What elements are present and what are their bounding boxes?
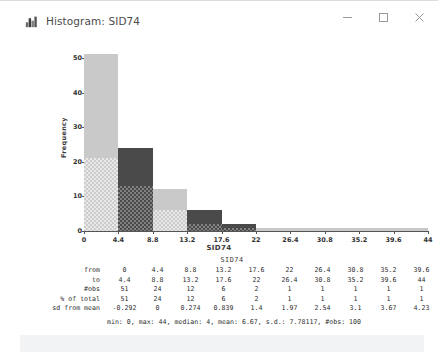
histogram-bar[interactable]: [222, 224, 256, 231]
stats-row-label: % of total: [0, 295, 108, 305]
stats-cell: 0: [141, 304, 174, 314]
minimize-icon: [342, 12, 353, 23]
histogram-plot[interactable]: Frequency 01020304050 04.48.813.217.6222…: [0, 37, 438, 253]
stats-cell: 24: [141, 285, 174, 295]
stats-cell: -0.292: [108, 304, 141, 314]
stats-cell: 1: [372, 285, 405, 295]
x-tick-label: 26.4: [282, 236, 298, 244]
histogram-bars[interactable]: [0, 37, 438, 237]
stats-cell: 51: [108, 285, 141, 295]
stats-cell: 2.54: [306, 304, 339, 314]
x-tick-mark: [428, 231, 429, 234]
stats-cell: 44: [405, 276, 438, 286]
stats-cell: 0.274: [174, 304, 207, 314]
x-axis-title: SID74: [0, 244, 438, 252]
summary-statistics: min: 0, max: 44, median: 4, mean: 6.67, …: [0, 318, 438, 326]
x-tick-label: 44: [423, 236, 432, 244]
x-tick-label: 8.8: [147, 236, 159, 244]
stats-cell: 1: [339, 285, 372, 295]
stats-cell: 1: [405, 295, 438, 305]
x-axis-line: [84, 231, 428, 232]
stats-title: SID74: [0, 256, 438, 264]
stats-cell: 4.4: [141, 266, 174, 276]
stats-cell: 0: [108, 266, 141, 276]
stats-row: sd from mean-0.29200.2740.8391.41.972.54…: [0, 304, 438, 314]
stats-cell: 1.97: [273, 304, 306, 314]
stats-cell: 1.4: [240, 304, 273, 314]
x-tick-label: 35.2: [351, 236, 367, 244]
stats-cell: 22: [240, 276, 273, 286]
stats-cell: 1: [273, 285, 306, 295]
stats-cell: 12: [174, 295, 207, 305]
x-tick-label: 17.6: [214, 236, 230, 244]
stats-cell: 24: [141, 295, 174, 305]
bar-unselected-segment: [84, 54, 118, 158]
stats-cell: 12: [174, 285, 207, 295]
stats-row-label: from: [0, 266, 108, 276]
stats-cell: 1: [306, 295, 339, 305]
bar-unselected-segment: [153, 189, 187, 210]
bar-selected-segment: [118, 186, 152, 231]
stats-cell: 26.4: [273, 276, 306, 286]
stats-cell: 30.8: [306, 276, 339, 286]
minimize-button[interactable]: [336, 9, 358, 25]
stats-row: #obs5124126211111: [0, 285, 438, 295]
stats-cell: 8.8: [174, 266, 207, 276]
stats-row: % of total5124126211111: [0, 295, 438, 305]
histogram-bar[interactable]: [84, 54, 118, 231]
stats-row-label: sd from mean: [0, 304, 108, 314]
close-button[interactable]: [408, 9, 430, 25]
x-tick-label: 22: [251, 236, 260, 244]
maximize-icon: [378, 12, 389, 23]
statistics-panel: SID74 from04.48.813.217.62226.430.835.23…: [0, 256, 438, 318]
stats-row: to4.48.813.217.62226.430.835.239.644: [0, 276, 438, 286]
histogram-bar[interactable]: [187, 210, 221, 231]
stats-cell: 6: [207, 295, 240, 305]
stats-cell: 4.23: [405, 304, 438, 314]
stats-cell: 13.2: [207, 266, 240, 276]
bar-unselected-segment: [187, 210, 221, 224]
bar-selected-segment: [153, 210, 187, 231]
stats-cell: 30.8: [339, 266, 372, 276]
window-title: Histogram: SID74: [46, 15, 140, 27]
stats-cell: 2: [240, 285, 273, 295]
stats-row: from04.48.813.217.62226.430.835.239.6: [0, 266, 438, 276]
histogram-window: Histogram: SID74 Frequency 01020304050 0…: [0, 0, 438, 352]
stats-cell: 39.6: [405, 266, 438, 276]
stats-cell: 0.839: [207, 304, 240, 314]
stats-cell: 2: [240, 295, 273, 305]
maximize-button[interactable]: [372, 9, 394, 25]
close-icon: [414, 12, 425, 23]
stats-cell: 3.67: [372, 304, 405, 314]
bar-selected-segment: [187, 224, 221, 231]
stats-cell: 6: [207, 285, 240, 295]
bar-selected-segment: [84, 158, 118, 231]
stats-cell: 39.6: [372, 276, 405, 286]
stats-cell: 4.4: [108, 276, 141, 286]
stats-cell: 1: [372, 295, 405, 305]
stats-row-label: to: [0, 276, 108, 286]
stats-cell: 22: [273, 266, 306, 276]
stats-cell: 13.2: [174, 276, 207, 286]
stats-row-label: #obs: [0, 285, 108, 295]
histogram-bar[interactable]: [153, 189, 187, 231]
bar-unselected-segment: [118, 148, 152, 186]
stats-cell: 35.2: [339, 276, 372, 286]
stats-cell: 3.1: [339, 304, 372, 314]
x-tick-label: 0: [82, 236, 87, 244]
stats-cell: 17.6: [207, 276, 240, 286]
stats-cell: 35.2: [372, 266, 405, 276]
stats-cell: 8.8: [141, 276, 174, 286]
stats-cell: 51: [108, 295, 141, 305]
stats-cell: 17.6: [240, 266, 273, 276]
stats-cell: 26.4: [306, 266, 339, 276]
x-tick-label: 4.4: [113, 236, 125, 244]
histogram-bar[interactable]: [118, 148, 152, 231]
x-tick-label: 13.2: [179, 236, 195, 244]
stats-cell: 1: [273, 295, 306, 305]
stats-cell: 1: [405, 285, 438, 295]
stats-cell: 1: [306, 285, 339, 295]
histogram-app-icon: [25, 15, 38, 28]
stats-cell: 1: [339, 295, 372, 305]
stats-table: from04.48.813.217.62226.430.835.239.6to4…: [0, 266, 438, 314]
